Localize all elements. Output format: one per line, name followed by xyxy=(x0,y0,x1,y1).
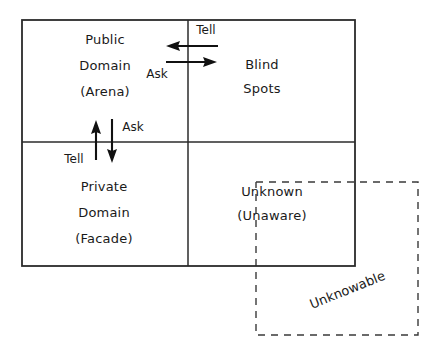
public-domain-line-3: (Arena) xyxy=(80,84,130,99)
ask-horizontal-head xyxy=(203,57,217,67)
johari-window-diagram: Public Domain (Arena) Blind Spots Privat… xyxy=(0,0,440,360)
ask-vertical-label: Ask xyxy=(122,120,143,134)
private-domain-line-1: Private xyxy=(81,179,128,194)
tell-horizontal-head xyxy=(166,41,180,51)
unknowable-dashed-border xyxy=(256,182,418,335)
unknowable-label: Unknowable xyxy=(307,268,387,312)
quadrant-blind-spots: Blind Spots xyxy=(243,57,280,96)
arrow-ask-horizontal: Ask xyxy=(146,57,217,81)
ask-vertical-head xyxy=(107,149,117,163)
quadrant-unknown: Unknown (Unaware) xyxy=(237,184,306,223)
private-domain-line-2: Domain xyxy=(78,205,130,220)
ask-horizontal-label: Ask xyxy=(146,67,167,81)
unknowable-region xyxy=(256,182,418,335)
tell-horizontal-label: Tell xyxy=(195,23,215,37)
private-domain-line-3: (Facade) xyxy=(75,231,132,246)
public-domain-line-1: Public xyxy=(85,32,125,47)
tell-vertical-label: Tell xyxy=(63,152,83,166)
arrow-ask-vertical: Ask xyxy=(107,119,144,163)
quadrant-public-domain: Public Domain (Arena) xyxy=(79,32,131,99)
public-domain-line-2: Domain xyxy=(79,58,131,73)
quadrant-private-domain: Private Domain (Facade) xyxy=(75,179,132,246)
arrow-tell-horizontal: Tell xyxy=(166,23,218,51)
diagram-canvas: Public Domain (Arena) Blind Spots Privat… xyxy=(0,0,440,360)
unknown-line-1: Unknown xyxy=(241,184,303,199)
unknowable-label-group: Unknowable xyxy=(307,268,387,312)
arrow-tell-vertical: Tell xyxy=(63,120,101,166)
blind-spots-line-2: Spots xyxy=(243,81,280,96)
tell-vertical-head xyxy=(91,120,101,134)
unknown-line-2: (Unaware) xyxy=(237,208,306,223)
blind-spots-line-1: Blind xyxy=(245,57,279,72)
